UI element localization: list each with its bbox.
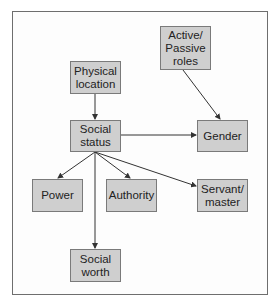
node-power: Power: [32, 179, 83, 212]
edge-social-status-to-authority: [95, 152, 130, 178]
node-physical-location: Physical location: [70, 61, 121, 94]
node-gender: Gender: [197, 120, 248, 152]
node-authority: Authority: [106, 179, 157, 212]
node-servant-master: Servant/ master: [197, 179, 248, 212]
node-social-worth: Social worth: [70, 249, 121, 282]
diagram-edges: [0, 0, 276, 306]
edge-active-passive-to-gender: [183, 70, 220, 119]
node-active-passive-roles: Active/ Passive roles: [160, 26, 211, 70]
edge-social-status-to-power: [58, 152, 95, 178]
node-social-status: Social status: [70, 120, 121, 152]
